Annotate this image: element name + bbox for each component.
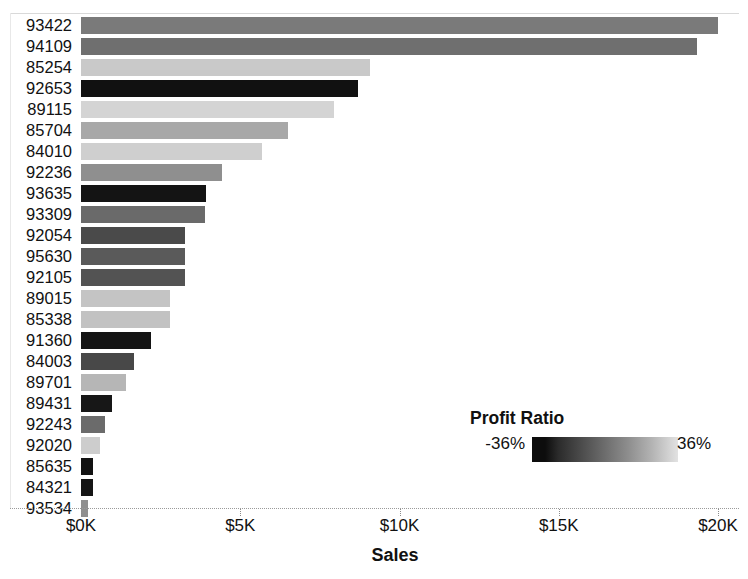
bar-row: 84003 (0, 352, 748, 373)
y-axis-category-label: 92236 (0, 163, 72, 182)
y-axis-category-label: 89431 (0, 394, 72, 413)
y-axis-category-label: 91360 (0, 331, 72, 350)
bar-row: 93309 (0, 205, 748, 226)
y-axis-category-label: 92653 (0, 79, 72, 98)
bar-row: 94109 (0, 37, 748, 58)
x-axis-tick-mark (718, 509, 719, 516)
sales-by-zipcode-bar-chart: 9342294109852549265389115857048401092236… (0, 0, 748, 579)
y-axis-category-label: 93422 (0, 16, 72, 35)
y-axis-category-label: 85635 (0, 457, 72, 476)
sales-bar[interactable] (81, 311, 170, 328)
bar-row: 85254 (0, 58, 748, 79)
x-axis-tick-label: $10K (355, 516, 445, 536)
sales-bar[interactable] (81, 479, 93, 496)
x-axis-tick-label: $20K (673, 516, 748, 536)
bar-row: 85704 (0, 121, 748, 142)
sales-bar[interactable] (81, 437, 100, 454)
sales-bar[interactable] (81, 395, 112, 412)
sales-bar[interactable] (81, 38, 697, 55)
y-axis-category-label: 89701 (0, 373, 72, 392)
sales-bar[interactable] (81, 101, 334, 118)
legend-min-label: -36% (455, 434, 525, 454)
sales-bar[interactable] (81, 59, 370, 76)
sales-bar[interactable] (81, 164, 222, 181)
sales-bar[interactable] (81, 458, 93, 475)
bar-row: 91360 (0, 331, 748, 352)
y-axis-category-label: 84321 (0, 478, 72, 497)
x-axis-tick-mark (559, 509, 560, 516)
sales-bar[interactable] (81, 374, 126, 391)
sales-bar[interactable] (81, 185, 206, 202)
y-axis-category-label: 84010 (0, 142, 72, 161)
y-axis-category-label: 89015 (0, 289, 72, 308)
bar-row: 84321 (0, 478, 748, 499)
sales-bar[interactable] (81, 290, 170, 307)
profit-ratio-legend: Profit Ratio -36% 36% (455, 408, 730, 468)
bar-row: 89115 (0, 100, 748, 121)
bar-row: 84010 (0, 142, 748, 163)
y-axis-category-label: 93635 (0, 184, 72, 203)
bar-row: 95630 (0, 247, 748, 268)
sales-bar[interactable] (81, 206, 205, 223)
y-axis-category-label: 93309 (0, 205, 72, 224)
y-axis-category-label: 85704 (0, 121, 72, 140)
sales-bar[interactable] (81, 122, 288, 139)
y-axis-category-label: 84003 (0, 352, 72, 371)
y-axis-category-label: 89115 (0, 100, 72, 119)
sales-bar[interactable] (81, 353, 134, 370)
x-axis-line (10, 508, 739, 509)
bar-row: 85338 (0, 310, 748, 331)
bar-row: 92653 (0, 79, 748, 100)
y-axis-category-label: 85338 (0, 310, 72, 329)
legend-color-ramp (532, 437, 678, 462)
legend-max-label: 36% (677, 434, 747, 454)
plot-top-border (10, 13, 739, 14)
y-axis-category-label: 95630 (0, 247, 72, 266)
y-axis-category-label: 92020 (0, 436, 72, 455)
sales-bar[interactable] (81, 248, 185, 265)
x-axis-title: Sales (0, 545, 748, 566)
sales-bar[interactable] (81, 332, 151, 349)
x-axis-tick-label: $0K (36, 516, 126, 536)
sales-bar[interactable] (81, 227, 185, 244)
bar-row: 89015 (0, 289, 748, 310)
bar-row: 92105 (0, 268, 748, 289)
x-axis-tick-mark (81, 509, 82, 516)
bar-row: 89701 (0, 373, 748, 394)
x-axis-tick-label: $15K (514, 516, 604, 536)
bar-row: 93635 (0, 184, 748, 205)
x-axis-tick-mark (400, 509, 401, 516)
bar-row: 92054 (0, 226, 748, 247)
bar-row: 92236 (0, 163, 748, 184)
y-axis-category-label: 92054 (0, 226, 72, 245)
x-axis-tick-label: $5K (195, 516, 285, 536)
y-axis-category-label: 92105 (0, 268, 72, 287)
y-axis-category-label: 85254 (0, 58, 72, 77)
sales-bar[interactable] (81, 416, 105, 433)
legend-title: Profit Ratio (470, 408, 564, 429)
sales-bar[interactable] (81, 17, 718, 34)
bar-row: 93422 (0, 16, 748, 37)
y-axis-category-label: 94109 (0, 37, 72, 56)
sales-bar[interactable] (81, 80, 358, 97)
y-axis-category-label: 92243 (0, 415, 72, 434)
sales-bar[interactable] (81, 143, 262, 160)
sales-bar[interactable] (81, 269, 185, 286)
x-axis-tick-mark (240, 509, 241, 516)
